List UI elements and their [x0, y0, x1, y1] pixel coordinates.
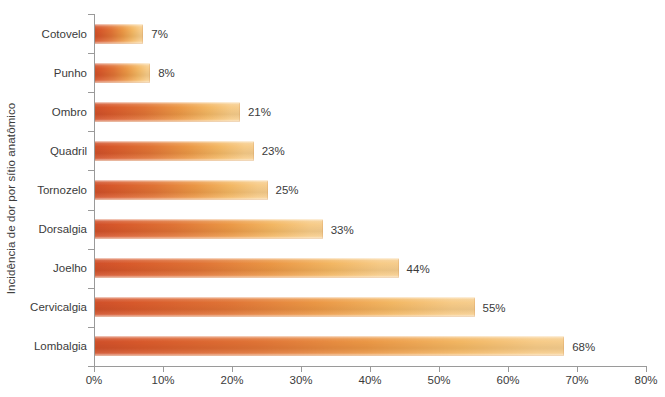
- bar-with-label: 8%: [95, 63, 175, 82]
- bar-with-label: 7%: [95, 24, 168, 43]
- category-label: Cervicalgia: [30, 301, 87, 313]
- category-label: Ombro: [52, 106, 87, 118]
- x-axis-tick-label: 10%: [151, 374, 174, 386]
- bar-with-label: 21%: [95, 102, 271, 121]
- bar-chart: Incidência de dor por sítio anatômico Co…: [0, 0, 665, 397]
- x-axis-tick: [577, 367, 578, 372]
- x-axis-tick-label: 80%: [634, 374, 657, 386]
- x-axis-tick: [301, 367, 302, 372]
- bar: [95, 24, 143, 43]
- bar: [95, 102, 240, 121]
- category-label: Cotovelo: [42, 28, 87, 40]
- x-axis-tick-label: 20%: [220, 374, 243, 386]
- category-label: Lombalgia: [34, 340, 87, 352]
- category-label: Quadril: [50, 145, 87, 157]
- bar-value-label: 33%: [331, 223, 354, 235]
- bar-value-label: 8%: [158, 67, 175, 79]
- y-axis-tick: [88, 327, 94, 328]
- bar-row: Punho8%: [94, 53, 646, 92]
- x-axis-tick-label: 60%: [496, 374, 519, 386]
- bar-value-label: 44%: [407, 262, 430, 274]
- bar: [95, 63, 150, 82]
- bar: [95, 180, 268, 199]
- x-axis-tick: [232, 367, 233, 372]
- x-axis-tick: [508, 367, 509, 372]
- bar-with-label: 23%: [95, 141, 285, 160]
- y-axis-tick: [88, 14, 94, 15]
- bar-value-label: 7%: [151, 28, 168, 40]
- bar-row: Quadril23%: [94, 131, 646, 170]
- category-label: Dorsalgia: [38, 223, 87, 235]
- bar: [95, 220, 323, 239]
- bar-row: Dorsalgia33%: [94, 210, 646, 249]
- bar-with-label: 44%: [95, 259, 430, 278]
- bar-value-label: 21%: [248, 106, 271, 118]
- x-axis-tick: [163, 367, 164, 372]
- category-label: Tornozelo: [37, 184, 87, 196]
- bar: [95, 259, 399, 278]
- x-axis-tick: [94, 367, 95, 372]
- y-axis-tick: [88, 170, 94, 171]
- bar-row: Joelho44%: [94, 249, 646, 288]
- x-axis-tick: [646, 367, 647, 372]
- x-axis-tick-label: 30%: [289, 374, 312, 386]
- bar: [95, 337, 564, 356]
- category-label: Punho: [54, 67, 87, 79]
- bar-value-label: 55%: [483, 301, 506, 313]
- bar-with-label: 68%: [95, 337, 595, 356]
- y-axis-tick: [88, 53, 94, 54]
- x-axis-tick: [439, 367, 440, 372]
- y-axis-tick: [88, 210, 94, 211]
- x-axis-tick-label: 70%: [565, 374, 588, 386]
- x-axis-tick-label: 40%: [358, 374, 381, 386]
- category-label: Joelho: [53, 262, 87, 274]
- bar-value-label: 68%: [572, 340, 595, 352]
- bar-row: Tornozelo25%: [94, 170, 646, 209]
- bar-with-label: 55%: [95, 298, 506, 317]
- y-axis-title: Incidência de dor por sítio anatômico: [0, 0, 22, 397]
- y-axis-tick: [88, 92, 94, 93]
- bar-row: Cervicalgia55%: [94, 288, 646, 327]
- bar-with-label: 33%: [95, 220, 354, 239]
- y-axis-tick: [88, 288, 94, 289]
- y-axis-tick: [88, 249, 94, 250]
- bar-with-label: 25%: [95, 180, 299, 199]
- bar: [95, 141, 254, 160]
- plot-area: Cotovelo7%Punho8%Ombro21%Quadril23%Torno…: [94, 14, 646, 366]
- bar-row: Lombalgia68%: [94, 327, 646, 366]
- bar-row: Ombro21%: [94, 92, 646, 131]
- y-axis-tick: [88, 131, 94, 132]
- x-axis-tick-label: 0%: [86, 374, 103, 386]
- bar-value-label: 25%: [276, 184, 299, 196]
- bar-value-label: 23%: [262, 145, 285, 157]
- x-axis-tick: [370, 367, 371, 372]
- x-axis-tick-label: 50%: [427, 374, 450, 386]
- bar-row: Cotovelo7%: [94, 14, 646, 53]
- bar: [95, 298, 475, 317]
